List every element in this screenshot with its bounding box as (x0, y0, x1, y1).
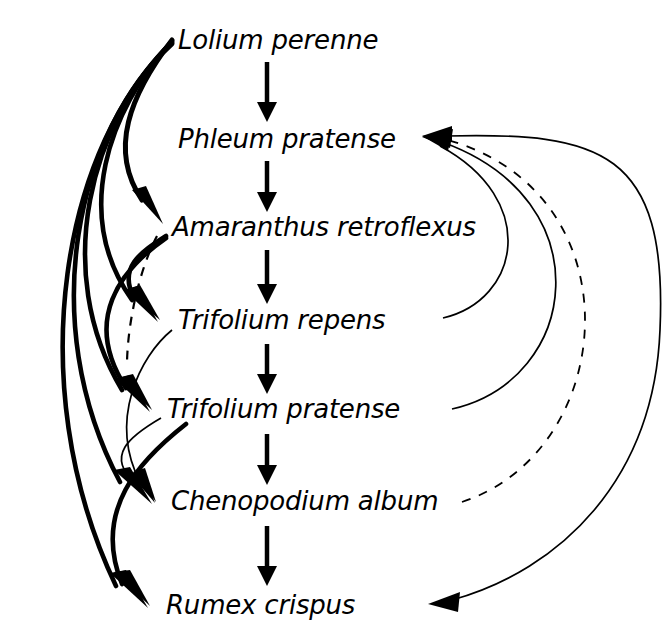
edge-amaranthus-to-trifolium-pratense (107, 238, 166, 410)
chain-arrow-lolium-phleum (257, 62, 277, 122)
node-label-amaranthus-retroflexus: Amaranthus retroflexus (172, 212, 476, 242)
chain-arrow-amaranthus-trifolium-repens (257, 250, 277, 304)
node-label-phleum-pratense: Phleum pratense (178, 124, 396, 154)
diagram-canvas: Lolium perenne Phleum pratense Amaranthu… (0, 0, 665, 644)
edge-amaranthus-to-trifolium-repens (124, 236, 166, 320)
node-label-chenopodium-album: Chenopodium album (171, 486, 438, 516)
chain-arrow-trifolium-repens-trifolium-pratense (257, 344, 277, 394)
chain-arrow-chenopodium-rumex (257, 526, 277, 586)
edge-chenopodium-to-phleum-dashed (444, 139, 585, 502)
node-label-rumex-crispus: Rumex crispus (166, 590, 355, 620)
edge-trifolium-pratense-to-phleum (422, 129, 556, 409)
node-label-lolium-perenne: Lolium perenne (178, 25, 378, 55)
node-label-trifolium-repens: Trifolium repens (178, 305, 385, 335)
node-label-trifolium-pratense: Trifolium pratense (167, 394, 400, 424)
chain-arrow-phleum-amaranthus (257, 161, 277, 212)
chain-arrow-trifolium-pratense-chenopodium (257, 434, 277, 485)
